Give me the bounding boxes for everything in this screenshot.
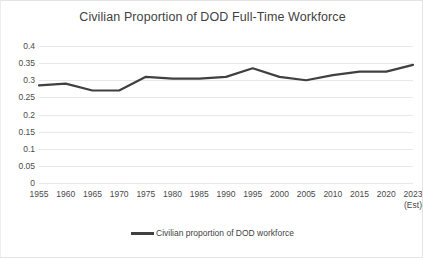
legend-marker-icon xyxy=(131,232,154,235)
legend-label: Civilian proportion of DOD workforce xyxy=(156,228,294,238)
y-axis-tick-label: 0.3 xyxy=(3,75,35,85)
x-axis-tick-label: 1970 xyxy=(110,189,129,200)
y-axis-tick-label: 0.2 xyxy=(3,110,35,120)
x-axis-tick-label: 1995 xyxy=(243,189,262,200)
x-axis-tick-label: 2020 xyxy=(377,189,396,200)
x-axis-tick-label: 2000 xyxy=(270,189,289,200)
x-axis-tick-label: 1990 xyxy=(217,189,236,200)
x-axis-tick-label: 1960 xyxy=(56,189,75,200)
y-axis-tick-label: 0 xyxy=(3,178,35,188)
y-axis-tick-label: 0.25 xyxy=(3,92,35,102)
x-axis-tick-label: 2023(Est) xyxy=(404,189,423,211)
plot-area xyxy=(39,46,413,183)
x-axis-tick-label: 2005 xyxy=(297,189,316,200)
y-axis-tick-label: 0.4 xyxy=(3,41,35,51)
series-line-civilian-proportion xyxy=(39,46,413,183)
y-axis-tick-label: 0.15 xyxy=(3,127,35,137)
x-axis-tick-label: 1975 xyxy=(136,189,155,200)
x-axis-tick-label: 2015 xyxy=(350,189,369,200)
y-axis-tick-label: 0.35 xyxy=(3,58,35,68)
y-axis-tick-label: 0.05 xyxy=(3,161,35,171)
y-axis-tick-label: 0.1 xyxy=(3,144,35,154)
x-axis-tick-label: 1980 xyxy=(163,189,182,200)
chart-container: Civilian Proportion of DOD Full-Time Wor… xyxy=(0,0,423,258)
gridline xyxy=(39,183,413,184)
x-axis-tick-label: 1955 xyxy=(30,189,49,200)
x-axis-tick-label: 1965 xyxy=(83,189,102,200)
chart-legend: Civilian proportion of DOD workforce xyxy=(1,228,423,238)
x-axis-tick-label: 1985 xyxy=(190,189,209,200)
x-axis-tick-label: 2010 xyxy=(323,189,342,200)
